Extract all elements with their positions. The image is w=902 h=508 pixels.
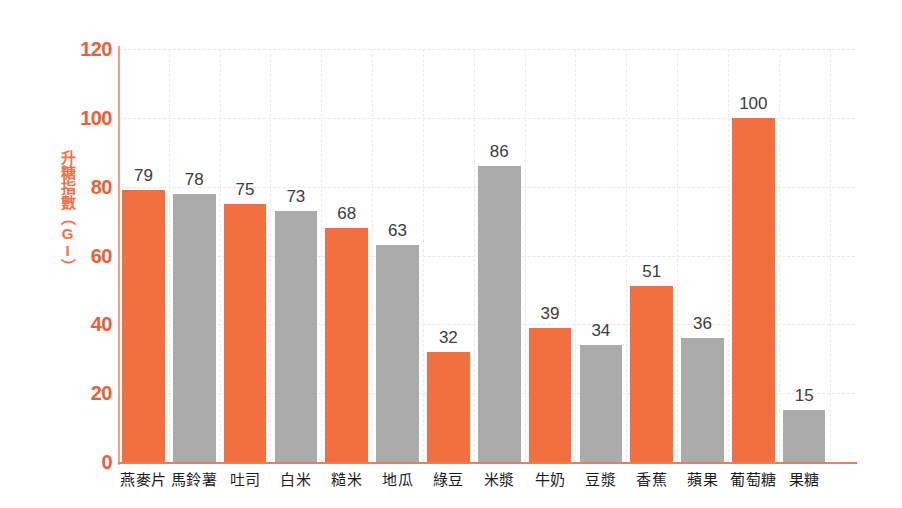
y-tick-label: 20 (66, 382, 112, 405)
x-tick-label: 燕麥片 (118, 468, 169, 489)
bar[interactable] (681, 338, 724, 462)
bar-value-label: 15 (779, 386, 830, 406)
bar[interactable] (732, 118, 775, 462)
bar-value-label: 68 (321, 204, 372, 224)
bar[interactable] (427, 352, 470, 462)
bar-value-label: 100 (728, 94, 779, 114)
bar-slot: 36 (677, 49, 728, 462)
y-tick-label: 60 (66, 244, 112, 267)
x-axis-tick-labels: 燕麥片馬鈴薯吐司白米糙米地瓜綠豆米漿牛奶豆漿香蕉蘋果葡萄糖果糖 (118, 468, 855, 498)
x-axis-line (118, 462, 857, 464)
x-tick-label: 白米 (270, 468, 321, 489)
bar[interactable] (580, 345, 623, 462)
bar-slot: 63 (372, 49, 423, 462)
bar-slot: 39 (525, 49, 576, 462)
x-tick-label: 果糖 (779, 468, 830, 489)
x-tick-label: 葡萄糖 (728, 468, 779, 489)
bar-value-label: 75 (220, 180, 271, 200)
bar-value-label: 79 (118, 166, 169, 186)
bar-value-label: 78 (169, 170, 220, 190)
y-tick-label: 80 (66, 175, 112, 198)
bar-slot: 34 (575, 49, 626, 462)
bar-value-label: 36 (677, 314, 728, 334)
x-tick-label: 香蕉 (626, 468, 677, 489)
bar-value-label: 86 (474, 142, 525, 162)
bar[interactable] (275, 211, 318, 462)
bar[interactable] (478, 166, 521, 462)
y-tick-label: 40 (66, 313, 112, 336)
bar[interactable] (630, 286, 673, 462)
bar-chart: 升糖指數（GI） 020406080100120 797875736863328… (0, 0, 902, 508)
x-tick-label: 蘋果 (677, 468, 728, 489)
x-tick-label: 糙米 (321, 468, 372, 489)
y-tick-label: 0 (66, 451, 112, 474)
bar[interactable] (783, 410, 826, 462)
bar[interactable] (224, 204, 267, 462)
bar-series: 79787573686332863934513610015 (118, 49, 855, 462)
bar-value-label: 51 (626, 262, 677, 282)
x-tick-label: 地瓜 (372, 468, 423, 489)
bar-value-label: 32 (423, 328, 474, 348)
y-axis-tick-labels: 020406080100120 (60, 0, 112, 508)
bar-slot: 75 (220, 49, 271, 462)
bar-slot: 78 (169, 49, 220, 462)
bar-slot: 32 (423, 49, 474, 462)
y-tick-label: 100 (66, 106, 112, 129)
bar-value-label: 63 (372, 221, 423, 241)
bar-slot: 100 (728, 49, 779, 462)
bar-slot: 15 (779, 49, 830, 462)
y-tick-label: 120 (66, 38, 112, 61)
bar-slot: 68 (321, 49, 372, 462)
bar-value-label: 34 (575, 321, 626, 341)
bar[interactable] (529, 328, 572, 462)
x-tick-label: 米漿 (474, 468, 525, 489)
x-tick-label: 豆漿 (575, 468, 626, 489)
bar-slot: 51 (626, 49, 677, 462)
bar[interactable] (173, 194, 216, 462)
bar-slot: 86 (474, 49, 525, 462)
x-tick-label: 馬鈴薯 (169, 468, 220, 489)
bar[interactable] (122, 190, 165, 462)
bar[interactable] (325, 228, 368, 462)
x-tick-label: 綠豆 (423, 468, 474, 489)
bar[interactable] (376, 245, 419, 462)
bar-slot: 79 (118, 49, 169, 462)
bar-slot: 73 (270, 49, 321, 462)
bar-value-label: 39 (525, 304, 576, 324)
bar-value-label: 73 (270, 187, 321, 207)
x-tick-label: 牛奶 (525, 468, 576, 489)
x-tick-label: 吐司 (220, 468, 271, 489)
